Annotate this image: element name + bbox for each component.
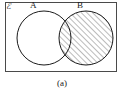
venn-diagram-figure: ℰ A B (a): [0, 0, 124, 95]
set-b-label: B: [77, 1, 83, 10]
figure-caption: (a): [0, 78, 124, 88]
universal-set-label: ℰ: [6, 3, 11, 11]
set-a-label: A: [30, 1, 37, 10]
